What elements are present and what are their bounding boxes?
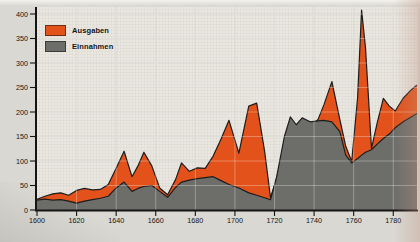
y-axis-label: 0 [24, 206, 28, 215]
x-axis-label: 1780 [385, 216, 401, 225]
y-axis-label: 200 [16, 108, 28, 117]
x-axis-label: 1600 [29, 216, 45, 225]
y-axis-label: 150 [16, 132, 28, 141]
y-axis-label: 50 [20, 181, 28, 190]
x-axis-label: 1740 [306, 216, 322, 225]
legend-item-einnahmen: Einnahmen [45, 41, 113, 52]
ausgaben-label: Ausgaben [72, 26, 109, 35]
x-axis-label: 1720 [267, 216, 283, 225]
x-axis-label: 1760 [346, 216, 362, 225]
x-axis-label: 1660 [148, 216, 164, 225]
einnahmen-swatch [45, 41, 66, 52]
ausgaben-swatch [45, 25, 66, 36]
y-axis-label: 300 [16, 59, 28, 68]
y-axis-label: 100 [16, 157, 28, 166]
x-axis-label: 1680 [187, 216, 203, 225]
einnahmen-label: Einnahmen [72, 42, 113, 51]
x-axis-label: 1640 [108, 216, 124, 225]
y-axis-label: 400 [16, 10, 28, 19]
y-axis-label: 350 [16, 34, 28, 43]
y-axis-label: 250 [16, 83, 28, 92]
legend-item-ausgaben: Ausgaben [45, 25, 113, 36]
photo-top-light-strip [0, 0, 420, 6]
book-page-photo: 0501001502002503003504001600162016401660… [0, 0, 420, 242]
chart-legend: Ausgaben Einnahmen [45, 25, 113, 57]
x-axis-label: 1700 [227, 216, 243, 225]
x-axis-label: 1620 [69, 216, 85, 225]
